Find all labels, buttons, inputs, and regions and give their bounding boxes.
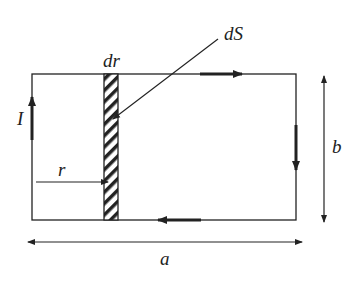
label-b: b [332, 136, 342, 157]
label-a: a [160, 248, 170, 269]
label-ds: dS [224, 23, 244, 44]
hatched-strip [104, 74, 118, 220]
label-dr: dr [103, 50, 121, 71]
label-current: I [16, 108, 25, 129]
loop-diagram: I dr dS r b a [0, 0, 361, 288]
ds-leader-line [113, 39, 218, 119]
current-loop [32, 74, 296, 220]
label-r: r [58, 159, 66, 180]
